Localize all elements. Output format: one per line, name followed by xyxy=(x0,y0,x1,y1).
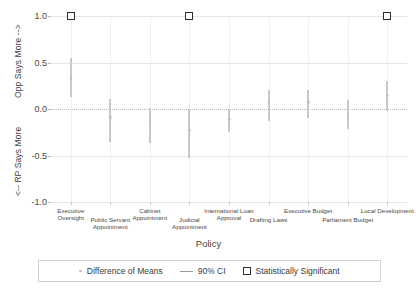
y-axis-tick-label: 0.5 xyxy=(34,58,47,68)
y-axis-title-group: Opp Says More --> <-- RP Says More xyxy=(0,0,20,200)
legend-item-difference-of-means: Difference of Means xyxy=(79,266,162,276)
chart-figure: Opp Says More --> <-- RP Says More 1.00.… xyxy=(0,0,417,289)
chart-legend: Difference of Means 90% CI Statistically… xyxy=(38,260,381,282)
confidence-interval-bar xyxy=(110,99,111,142)
x-axis-tick-label: Drafting Laws xyxy=(242,216,296,223)
y-axis-tick-label: 0.0 xyxy=(34,104,47,114)
significance-square-icon xyxy=(185,12,193,20)
difference-of-means-point xyxy=(149,119,152,122)
significance-square-icon xyxy=(67,12,75,20)
significance-square-icon xyxy=(383,12,391,20)
y-axis-tick-mark xyxy=(48,109,51,110)
confidence-interval-bar xyxy=(268,90,269,121)
difference-of-means-point xyxy=(109,116,112,119)
x-axis-tick-mark xyxy=(71,202,72,205)
difference-of-means-point xyxy=(346,113,349,116)
y-axis-tick-label: 1.0 xyxy=(34,11,47,21)
difference-of-means-point xyxy=(70,77,73,80)
x-axis-tick-mark xyxy=(150,202,151,205)
legend-label: Statistically Significant xyxy=(256,266,340,276)
difference-of-means-point xyxy=(267,102,270,105)
gridline-x xyxy=(71,16,72,202)
legend-item-statistically-significant: Statistically Significant xyxy=(243,266,340,276)
legend-item-90-ci: 90% CI xyxy=(180,266,226,276)
dot-marker-icon xyxy=(79,270,82,273)
difference-of-means-point xyxy=(228,118,231,121)
confidence-interval-bar xyxy=(229,109,230,132)
x-axis-tick-mark xyxy=(229,202,230,205)
x-axis-tick-mark xyxy=(189,202,190,205)
legend-label: Difference of Means xyxy=(87,266,163,276)
confidence-interval-bar xyxy=(149,108,150,143)
plot-area: 1.00.50.0-0.5-1.0 xyxy=(51,16,407,202)
y-axis-tick-label: -0.5 xyxy=(31,151,47,161)
y-axis-tick-mark xyxy=(48,16,51,17)
x-axis-title: Policy xyxy=(0,238,417,249)
x-axis-tick-mark xyxy=(387,202,388,205)
confidence-interval-bar xyxy=(308,90,309,118)
square-marker-icon xyxy=(243,267,251,275)
y-axis-title-top: Opp Says More --> xyxy=(13,24,23,98)
difference-of-means-point xyxy=(386,95,389,98)
x-axis-tick-mark xyxy=(308,202,309,205)
x-axis-tick-mark xyxy=(110,202,111,205)
x-axis-tick-label: Parliament Budget xyxy=(321,216,375,223)
x-axis-tick-mark xyxy=(348,202,349,205)
legend-label: 90% CI xyxy=(198,266,226,276)
y-axis-tick-mark xyxy=(48,156,51,157)
confidence-interval-bar xyxy=(189,109,190,158)
difference-of-means-point xyxy=(188,129,191,132)
line-marker-icon xyxy=(180,271,193,272)
y-axis-tick-mark xyxy=(48,202,51,203)
x-axis-tick-mark xyxy=(269,202,270,205)
difference-of-means-point xyxy=(307,101,310,104)
y-axis-title-bottom: <-- RP Says More xyxy=(13,127,23,196)
y-axis-tick-label: -1.0 xyxy=(31,197,47,207)
x-axis-tick-label: Executive Budget xyxy=(281,207,335,214)
y-axis-tick-mark xyxy=(48,63,51,64)
x-axis-tick-label: Local Development xyxy=(360,207,414,214)
